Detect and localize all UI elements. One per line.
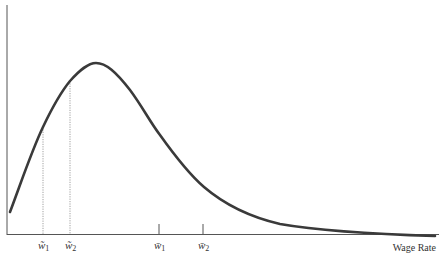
- w-bar-1-label: w̄1: [154, 239, 165, 253]
- w-bar-2-label: w̄2: [198, 239, 209, 253]
- w-tilde-2-label: w̃2: [65, 239, 76, 253]
- density-curve: [10, 63, 435, 236]
- x-axis-title: Wage Rate: [393, 242, 437, 253]
- w-tilde-1-label: w̃1: [38, 239, 49, 253]
- wage-distribution-chart: w̃1 w̃2 w̄1 w̄2 Wage Rate: [0, 0, 439, 254]
